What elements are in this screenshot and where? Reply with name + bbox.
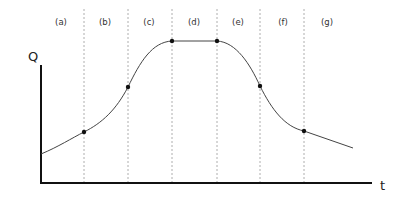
phase-label: (a)	[55, 17, 67, 27]
phase-label: (e)	[232, 17, 244, 27]
phase-label: (f)	[278, 17, 288, 27]
curve-point	[302, 129, 306, 133]
curve-point	[170, 39, 174, 43]
y-axis-label: Q	[28, 49, 38, 64]
q-curve	[41, 41, 353, 154]
x-axis-label: t	[380, 178, 385, 193]
phase-labels: (a)(b)(c)(d)(e)(f)(g)	[55, 17, 333, 27]
phase-label: (b)	[99, 17, 111, 27]
phase-diagram: (a)(b)(c)(d)(e)(f)(g) Q t	[0, 0, 397, 197]
phase-label: (c)	[143, 17, 154, 27]
curve-point	[258, 84, 262, 88]
phase-label: (d)	[188, 17, 200, 27]
phase-label: (g)	[321, 17, 333, 27]
curve-point	[215, 39, 219, 43]
curve-points	[82, 39, 306, 134]
phase-dividers	[84, 9, 304, 183]
curve-point	[82, 130, 86, 134]
curve-point	[126, 85, 130, 89]
